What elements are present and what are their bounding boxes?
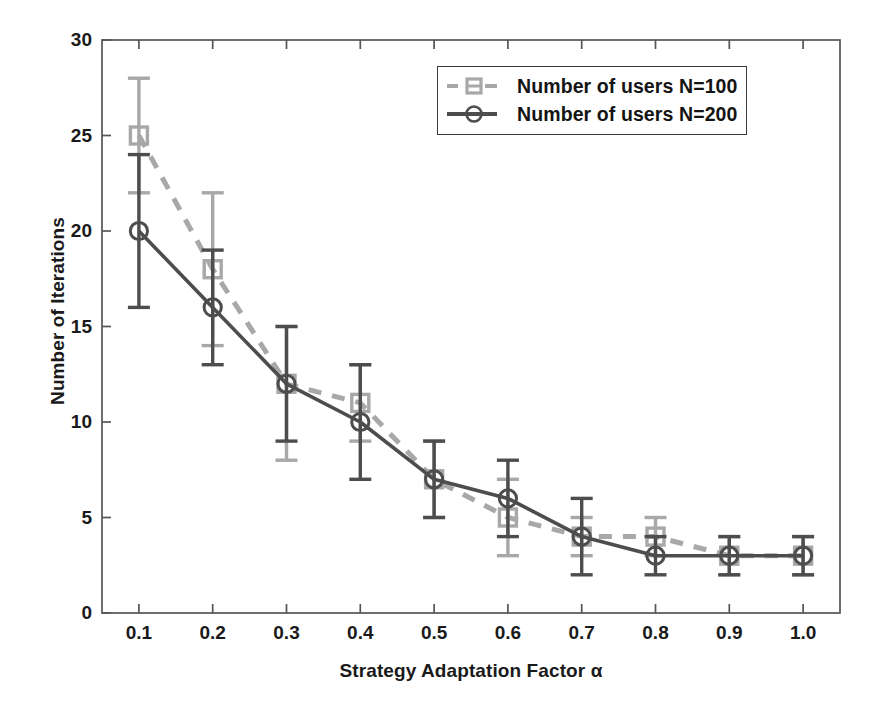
legend-label-n200: Number of users N=200 [517,103,737,126]
legend-label-n100: Number of users N=100 [517,75,737,98]
legend-swatch-dashed-square [445,74,511,98]
series-line [139,136,803,556]
series-line [139,231,803,556]
series-n200 [128,155,814,575]
chart-figure: Number of Iterations 051015202530 0.10.2… [0,0,869,706]
legend-item-n200: Number of users N=200 [445,100,737,128]
legend-item-n100: Number of users N=100 [445,72,737,100]
chart-legend: Number of users N=100 Number of users N=… [437,66,747,135]
legend-swatch-solid-circle [445,102,511,126]
